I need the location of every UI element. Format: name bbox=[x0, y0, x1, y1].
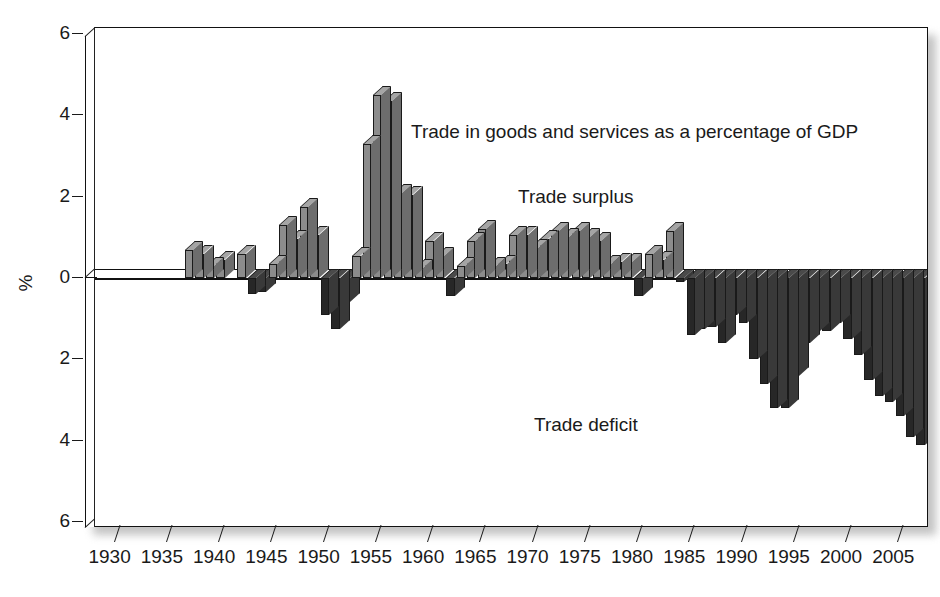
bar-front-face bbox=[237, 254, 245, 278]
trade-surplus-label: Trade surplus bbox=[518, 186, 633, 208]
bar bbox=[687, 278, 695, 335]
bar-side-face bbox=[883, 269, 893, 396]
y-axis-tick-label: 4 bbox=[48, 430, 70, 449]
bar bbox=[457, 266, 465, 278]
bar-front-face bbox=[687, 278, 695, 335]
zero-baseline-back bbox=[85, 277, 97, 278]
bar bbox=[634, 278, 642, 296]
bar-side-face bbox=[580, 222, 590, 278]
bar-front-face bbox=[927, 278, 928, 457]
x-axis-tick-label: 2005 bbox=[858, 547, 928, 566]
bar-side-face bbox=[726, 269, 736, 343]
y-axis-tick-mark bbox=[72, 358, 83, 359]
bar-top-face bbox=[927, 269, 928, 278]
bar-side-face bbox=[852, 269, 862, 339]
bar-side-face bbox=[486, 220, 496, 278]
bar-side-face bbox=[319, 226, 329, 278]
y-axis-tick-label: 6 bbox=[48, 511, 70, 530]
bar-side-face bbox=[820, 269, 830, 331]
bar-front-face bbox=[446, 278, 454, 296]
y-axis-tick-mark bbox=[72, 196, 83, 197]
bar bbox=[321, 278, 329, 315]
bar bbox=[248, 278, 256, 294]
chart-title-annotation: Trade in goods and services as a percent… bbox=[411, 121, 858, 143]
bar-side-face bbox=[695, 269, 705, 335]
bar-side-face bbox=[705, 269, 715, 329]
trade-deficit-label: Trade deficit bbox=[534, 414, 638, 436]
y-axis-tick-label: 0 bbox=[48, 267, 70, 286]
y-axis-tick-mark bbox=[72, 440, 83, 441]
bar-front-face bbox=[676, 278, 684, 282]
y-axis-tick-mark bbox=[72, 33, 83, 34]
bar-side-face bbox=[413, 186, 423, 278]
chart-figure: % 6420246 Trade in goods and services as… bbox=[0, 0, 940, 597]
bar-side-face bbox=[381, 86, 391, 278]
bar-side-face bbox=[402, 184, 412, 278]
bar-side-face bbox=[799, 269, 809, 376]
bar-front-face bbox=[185, 250, 193, 278]
bar-front-face bbox=[269, 264, 277, 278]
bar-side-face bbox=[716, 269, 726, 327]
bar bbox=[645, 254, 653, 278]
bar-front-face bbox=[457, 266, 465, 278]
bar-front-face bbox=[248, 278, 256, 294]
bar-front-face bbox=[321, 278, 329, 315]
y-axis-tick-mark bbox=[72, 521, 83, 522]
bar-side-face bbox=[559, 222, 569, 278]
bar-side-face bbox=[768, 269, 778, 384]
plot-area: Trade in goods and services as a percent… bbox=[85, 27, 928, 527]
bar-side-face bbox=[789, 269, 799, 408]
y-axis-tick-label: 2 bbox=[48, 348, 70, 367]
bar-side-face bbox=[904, 269, 914, 416]
bar-side-face bbox=[873, 269, 883, 380]
bar-side-face bbox=[914, 269, 924, 437]
bar-side-face bbox=[528, 226, 538, 278]
bar-side-face bbox=[758, 269, 768, 359]
plot-back-left-edge bbox=[85, 36, 86, 527]
bar-side-face bbox=[371, 135, 381, 278]
bar bbox=[237, 254, 245, 278]
y-axis-label: % bbox=[15, 275, 37, 292]
y-axis-tick-label: 2 bbox=[48, 186, 70, 205]
bar bbox=[352, 256, 360, 278]
bar bbox=[927, 278, 928, 457]
bar bbox=[269, 264, 277, 278]
bar-side-face bbox=[308, 198, 318, 278]
bar-side-face bbox=[862, 269, 872, 355]
bar-side-face bbox=[392, 92, 402, 278]
y-axis-tick-mark bbox=[72, 114, 83, 115]
y-axis-tick-label: 6 bbox=[48, 23, 70, 42]
bar-side-face bbox=[893, 269, 903, 402]
bar-front-face bbox=[634, 278, 642, 296]
y-axis-tick-label: 4 bbox=[48, 104, 70, 123]
bar bbox=[676, 278, 684, 282]
bar-side-face bbox=[831, 269, 841, 331]
bar-side-face bbox=[925, 269, 928, 445]
bar bbox=[446, 278, 454, 296]
bar-side-face bbox=[287, 216, 297, 278]
y-axis-tick-mark bbox=[72, 277, 83, 278]
bar-side-face bbox=[747, 269, 757, 323]
bar-front-face bbox=[352, 256, 360, 278]
bar-side-face bbox=[340, 269, 350, 329]
bar bbox=[185, 250, 193, 278]
bar-front-face bbox=[645, 254, 653, 278]
bar-side-face bbox=[810, 269, 820, 343]
bar-side-face bbox=[778, 269, 788, 408]
bar-side-face bbox=[841, 269, 851, 323]
bar-side-face bbox=[674, 222, 684, 278]
